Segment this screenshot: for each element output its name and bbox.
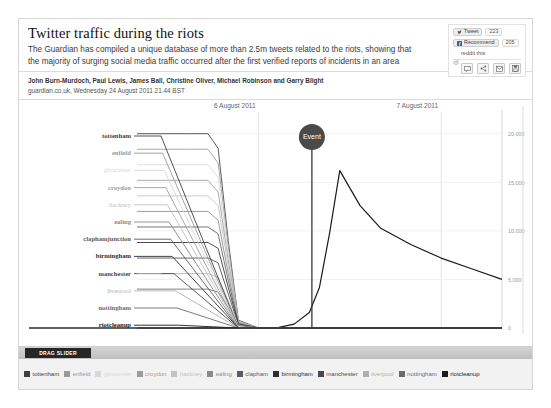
series-label[interactable]: croydon [108, 183, 131, 190]
social-share-box: Tweet 223 Recommend 205 reddit this [448, 24, 526, 77]
facebook-icon [457, 41, 462, 46]
standfirst: The Guardian has compiled a unique datab… [28, 44, 423, 67]
legend-swatch [137, 371, 143, 377]
series-label[interactable]: hackney [109, 201, 132, 208]
legend-item[interactable]: tottenham [24, 371, 59, 377]
legend-item[interactable]: manchester [318, 371, 358, 377]
series-label[interactable]: tottenham [102, 132, 131, 139]
series-label[interactable]: liverpool [107, 287, 131, 294]
legend-label: clapham [245, 371, 268, 377]
infographic-window: Twitter traffic during the riots The Gua… [18, 18, 533, 390]
x-tick-label: 6 August 2011 [214, 102, 256, 110]
series-line[interactable] [137, 289, 502, 328]
legend-item[interactable]: liverpool [363, 371, 394, 377]
series-label[interactable]: ealing [114, 218, 132, 225]
recommend-row: Recommend 205 [453, 39, 521, 47]
legend-label: ealing [216, 371, 232, 377]
legend-label: riotcleanup [450, 371, 479, 377]
series-label[interactable]: manchester [98, 269, 131, 276]
recommend-count: 205 [502, 39, 519, 47]
y-tick-label: 15,000 [508, 179, 525, 185]
legend-swatch [171, 371, 177, 377]
tweet-button[interactable]: Tweet [453, 28, 482, 36]
legend-swatch [95, 371, 101, 377]
series-label[interactable]: birmingham [96, 252, 132, 259]
y-tick-label: 10,000 [508, 228, 525, 234]
legend-item[interactable]: clapham [237, 371, 268, 377]
traffic-line-chart[interactable]: 6 August 20117 August 201105,00010,00015… [19, 100, 532, 363]
legend-swatch [237, 371, 243, 377]
recommend-label: Recommend [464, 40, 495, 45]
legend-label: enfield [73, 371, 91, 377]
legend-label: tottenham [33, 371, 60, 377]
series-line[interactable] [137, 180, 502, 328]
chart-area: 6 August 20117 August 201105,00010,00015… [19, 100, 532, 363]
legend-label: croydon [145, 371, 166, 377]
header: Twitter traffic during the riots The Gua… [19, 19, 532, 72]
tweet-row: Tweet 223 [453, 28, 521, 36]
timeline-slider[interactable]: DRAG SLIDER [19, 346, 532, 359]
legend-item[interactable]: gloucester [95, 371, 131, 377]
legend-swatch [318, 371, 324, 377]
legend-item[interactable]: birmingham [273, 371, 313, 377]
series-drop [163, 153, 239, 328]
series-label[interactable]: riotcleanup [99, 321, 132, 328]
twitter-icon [457, 30, 462, 35]
y-tick-label: 0 [508, 325, 511, 331]
legend-swatch [273, 371, 279, 377]
legend-item[interactable]: croydon [137, 371, 167, 377]
drag-slider-handle[interactable]: DRAG SLIDER [25, 348, 91, 358]
legend-swatch [442, 371, 448, 377]
series-line[interactable] [137, 196, 502, 328]
series-label[interactable]: nottingham [98, 304, 131, 311]
series-line[interactable] [137, 170, 502, 327]
y-tick-label: 5,000 [508, 277, 522, 283]
series-drop [167, 205, 238, 328]
legend-item[interactable]: nottingham [399, 371, 437, 377]
legend-swatch [207, 371, 213, 377]
chart-legend: tottenhamenfieldgloucestercroydonhackney… [19, 359, 532, 389]
legend-swatch [363, 371, 369, 377]
series-line[interactable] [137, 258, 502, 328]
reddit-row[interactable]: reddit this [453, 50, 521, 56]
legend-label: liverpool [371, 371, 393, 377]
series-label[interactable]: enfield [112, 149, 131, 156]
legend-item[interactable]: ealing [207, 371, 232, 377]
series-label[interactable]: claphamjunction [83, 235, 131, 242]
byline-publication: guardian.co.uk, Wednesday 24 August 2011… [28, 86, 523, 95]
legend-swatch [399, 371, 405, 377]
byline-authors: John Burn-Murdoch, Paul Lewis, James Bal… [28, 76, 523, 85]
legend-item[interactable]: enfield [64, 371, 90, 377]
reddit-icon [453, 51, 458, 56]
x-tick-label: 7 August 2011 [396, 102, 438, 110]
reddit-label: reddit this [461, 50, 485, 56]
legend-item[interactable]: hackney [171, 371, 202, 377]
byline: John Burn-Murdoch, Paul Lewis, James Bal… [19, 72, 532, 100]
event-marker-label: Event [303, 133, 321, 140]
legend-swatch [64, 371, 70, 377]
recommend-button[interactable]: Recommend [453, 39, 499, 47]
legend-label: birmingham [281, 371, 312, 377]
y-tick-label: 20,000 [508, 131, 525, 137]
legend-label: hackney [180, 371, 202, 377]
tweet-count: 223 [485, 28, 502, 36]
legend-swatch [24, 371, 30, 377]
legend-label: nottingham [407, 371, 437, 377]
legend-label: manchester [326, 371, 357, 377]
drag-slider-label: DRAG SLIDER [39, 350, 77, 356]
legend-label: gloucester [104, 371, 132, 377]
legend-item[interactable]: riotcleanup [442, 371, 480, 377]
series-label[interactable]: gloucester [104, 166, 132, 173]
tweet-label: Tweet [464, 29, 478, 34]
